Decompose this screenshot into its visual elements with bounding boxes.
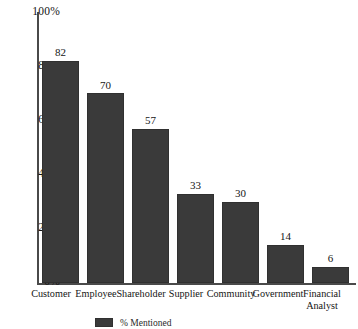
bar-shareholder[interactable]: [132, 129, 169, 284]
legend-swatch-icon: [95, 318, 113, 327]
bar-supplier[interactable]: [177, 194, 214, 283]
bar-employee[interactable]: [87, 93, 124, 283]
bar-chart: 100% 80% 60% 40% 20% 0% 82 70 57 33 30 1…: [0, 0, 358, 329]
bar-slot-community: 30: [222, 12, 259, 283]
bar-community[interactable]: [222, 202, 259, 283]
x-axis-line: [37, 283, 356, 285]
bar-slot-shareholder: 57: [132, 12, 169, 283]
bar-slot-government: 14: [267, 12, 304, 283]
legend-label: % Mentioned: [120, 318, 171, 328]
bar-value-government: 14: [255, 230, 316, 242]
bar-value-shareholder: 57: [120, 114, 181, 126]
plot-area: 82 70 57 33 30 14 6: [39, 12, 356, 283]
bar-value-customer: 82: [30, 46, 91, 58]
bar-value-employee: 70: [75, 79, 136, 91]
bar-slot-supplier: 33: [177, 12, 214, 283]
bar-government[interactable]: [267, 245, 304, 283]
bar-customer[interactable]: [42, 61, 79, 283]
bar-slot-financial-analyst: 6: [312, 12, 349, 283]
bar-slot-customer: 82: [42, 12, 79, 283]
x-label-financial-analyst: Financial Analyst: [292, 288, 352, 311]
legend: % Mentioned: [95, 318, 171, 328]
bar-slot-employee: 70: [87, 12, 124, 283]
bar-value-financial-analyst: 6: [300, 252, 358, 264]
bar-financial-analyst[interactable]: [312, 267, 349, 283]
bar-value-community: 30: [210, 187, 271, 199]
